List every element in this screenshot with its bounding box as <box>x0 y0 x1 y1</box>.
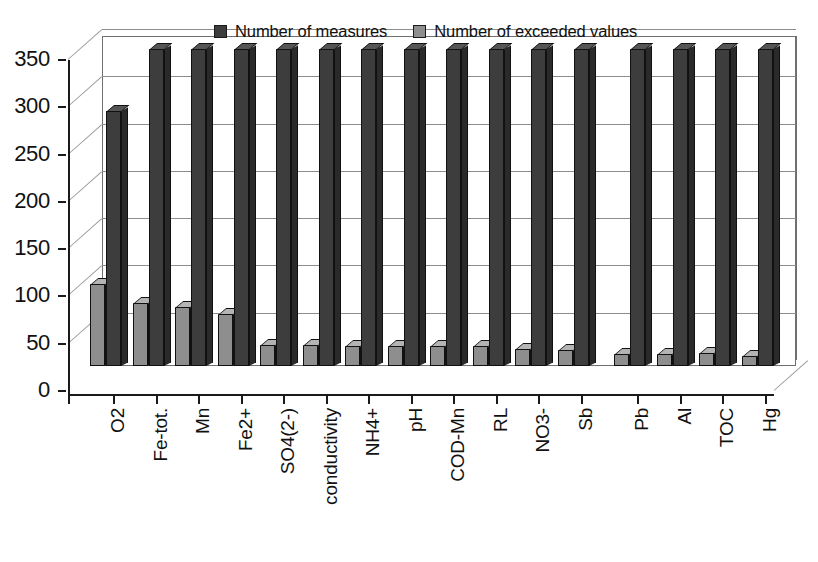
bar-front-face <box>133 303 148 366</box>
bar[interactable] <box>319 49 334 366</box>
bar-side-face <box>645 46 652 366</box>
x-tick-mark <box>326 396 328 404</box>
y-tick-label: 50 <box>26 330 50 356</box>
bar[interactable] <box>260 345 275 366</box>
bar[interactable] <box>133 303 148 366</box>
bar[interactable] <box>430 346 445 366</box>
bar[interactable] <box>388 346 403 366</box>
x-tick-label: SO4(2-) <box>277 408 299 474</box>
bar-front-face <box>388 346 403 366</box>
bar-cluster <box>515 42 554 366</box>
bar-front-face <box>742 356 757 366</box>
bar[interactable] <box>531 49 546 366</box>
bars-layer <box>68 36 798 396</box>
bar[interactable] <box>630 49 645 366</box>
bar[interactable] <box>175 307 190 366</box>
bar-front-face <box>574 49 589 366</box>
y-tick-mark <box>58 295 66 297</box>
bar-cluster <box>742 42 781 366</box>
y-tick-label: 150 <box>14 235 50 261</box>
bar[interactable] <box>191 49 206 366</box>
y-tick-label: 100 <box>14 282 50 308</box>
bar-cluster <box>657 42 696 366</box>
x-tick-label: O2 <box>107 408 129 433</box>
x-tick-mark <box>411 396 413 404</box>
y-tick-label: 0 <box>38 377 50 403</box>
x-tick-mark <box>198 396 200 404</box>
bar[interactable] <box>303 345 318 366</box>
legend-label: Number of measures <box>235 22 387 41</box>
bar-front-face <box>715 49 730 366</box>
bar-front-face <box>473 346 488 366</box>
bar-front-face <box>106 111 121 366</box>
bar[interactable] <box>614 354 629 366</box>
bar-cluster <box>303 42 342 366</box>
legend-swatch-icon <box>413 25 426 38</box>
x-tick-mark <box>637 396 639 404</box>
bar[interactable] <box>404 49 419 366</box>
bar-front-face <box>531 49 546 366</box>
legend-item-number-of-exceeded-values[interactable]: Number of exceeded values <box>413 22 637 41</box>
x-tick-mark <box>722 396 724 404</box>
bar-cluster <box>473 42 512 366</box>
bar-cluster <box>388 42 427 366</box>
bar[interactable] <box>106 111 121 366</box>
bar-front-face <box>319 49 334 366</box>
bar-front-face <box>361 49 376 366</box>
legend-label: Number of exceeded values <box>434 22 637 41</box>
bar[interactable] <box>276 49 291 366</box>
legend-swatch-icon <box>214 25 227 38</box>
bar[interactable] <box>673 49 688 366</box>
bar-cluster <box>614 42 653 366</box>
bar-side-face <box>773 46 780 366</box>
bar[interactable] <box>657 354 672 366</box>
y-tick-mark <box>58 201 66 203</box>
bar-cluster <box>218 42 257 366</box>
x-tick-mark <box>156 396 158 404</box>
chart-legend: Number of measures Number of exceeded va… <box>214 22 637 41</box>
bar-side-face <box>546 46 553 366</box>
x-tick-label: Al <box>674 408 696 425</box>
y-tick-mark <box>58 154 66 156</box>
x-tick-mark-origin <box>68 396 70 404</box>
x-tick-label: pH <box>405 408 427 432</box>
bar[interactable] <box>149 49 164 366</box>
bar-side-face <box>121 107 128 366</box>
bar-side-face <box>334 46 341 366</box>
bar[interactable] <box>361 49 376 366</box>
x-tick-label: NH4+ <box>362 408 384 456</box>
bar-cluster <box>90 42 129 366</box>
x-tick-label: conductivity <box>320 408 342 505</box>
bar[interactable] <box>489 49 504 366</box>
bar[interactable] <box>90 284 105 366</box>
bar-front-face <box>276 49 291 366</box>
x-tick-mark <box>453 396 455 404</box>
bar[interactable] <box>742 356 757 366</box>
bar-front-face <box>699 353 714 366</box>
bar[interactable] <box>345 346 360 366</box>
bar[interactable] <box>234 49 249 366</box>
bar[interactable] <box>446 49 461 366</box>
x-tick-mark <box>765 396 767 404</box>
bar-side-face <box>249 46 256 366</box>
legend-item-number-of-measures[interactable]: Number of measures <box>214 22 387 41</box>
bar[interactable] <box>218 314 233 366</box>
x-tick-mark <box>496 396 498 404</box>
bar[interactable] <box>574 49 589 366</box>
bar[interactable] <box>473 346 488 366</box>
y-axis: 050100150200250300350 <box>4 0 66 562</box>
x-tick-label: RL <box>490 408 512 432</box>
bar[interactable] <box>515 349 530 366</box>
x-tick-mark <box>368 396 370 404</box>
bar-front-face <box>657 354 672 366</box>
bar[interactable] <box>558 350 573 366</box>
bar[interactable] <box>715 49 730 366</box>
bar-front-face <box>758 49 773 366</box>
bar-cluster <box>175 42 214 366</box>
bar-cluster <box>260 42 299 366</box>
x-tick-mark <box>113 396 115 404</box>
bar[interactable] <box>758 49 773 366</box>
y-tick-label: 250 <box>14 141 50 167</box>
bar-front-face <box>303 345 318 366</box>
bar[interactable] <box>699 353 714 366</box>
